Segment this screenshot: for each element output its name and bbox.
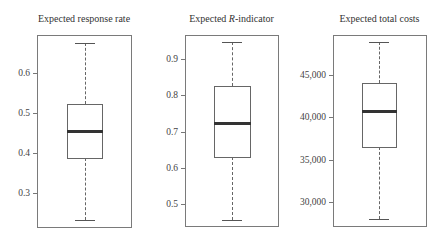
chart-title-part: -indicator	[235, 13, 274, 24]
y-tick-label: 0.7	[138, 127, 178, 137]
median-line	[214, 122, 251, 125]
y-tick	[181, 59, 185, 60]
chart-title: Expected response rate	[14, 13, 154, 24]
upper-whisker	[85, 43, 86, 104]
lower-whisker-cap	[75, 220, 95, 221]
median-line	[67, 130, 103, 133]
chart-title: Expected R-indicator	[162, 13, 302, 24]
y-tick-label: 0.9	[138, 54, 178, 64]
y-tick	[329, 160, 333, 161]
chart-title-part: Expected	[189, 13, 229, 24]
y-tick	[181, 95, 185, 96]
upper-whisker-cap	[222, 42, 242, 43]
y-tick-label: 35,000	[286, 155, 326, 165]
y-tick	[329, 117, 333, 118]
y-tick-label: 45,000	[286, 70, 326, 80]
y-tick	[33, 73, 37, 74]
y-tick-label: 0.8	[138, 90, 178, 100]
lower-whisker	[379, 147, 380, 219]
y-tick	[329, 202, 333, 203]
y-tick	[181, 132, 185, 133]
chart-title: Expected total costs	[310, 13, 442, 24]
y-tick	[181, 204, 185, 205]
y-tick-label: 0.5	[0, 108, 30, 118]
y-tick	[33, 113, 37, 114]
y-tick-label: 0.6	[138, 163, 178, 173]
y-tick-label: 40,000	[286, 112, 326, 122]
upper-whisker	[232, 42, 233, 86]
lower-whisker-cap	[222, 220, 242, 221]
chart-title-part: Expected response rate	[38, 13, 130, 24]
lower-whisker	[232, 157, 233, 220]
y-tick-label: 0.4	[0, 148, 30, 158]
y-tick-label: 30,000	[286, 197, 326, 207]
median-line	[362, 110, 397, 113]
y-tick	[33, 193, 37, 194]
upper-whisker-cap	[75, 43, 95, 44]
lower-whisker-cap	[369, 219, 389, 220]
chart-title-part: Expected total costs	[340, 13, 420, 24]
iqr-box	[362, 83, 397, 148]
y-tick-label: 0.3	[0, 188, 30, 198]
y-tick	[329, 75, 333, 76]
y-tick	[33, 153, 37, 154]
upper-whisker-cap	[369, 42, 389, 43]
upper-whisker	[379, 42, 380, 83]
lower-whisker	[85, 158, 86, 220]
y-tick-label: 0.6	[0, 68, 30, 78]
y-tick-label: 0.5	[138, 199, 178, 209]
y-tick	[181, 168, 185, 169]
